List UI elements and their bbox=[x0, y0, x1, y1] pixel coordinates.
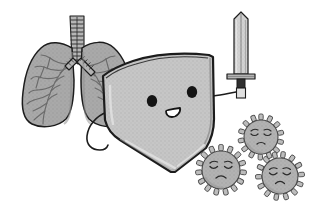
right-arm bbox=[213, 92, 236, 96]
scene-svg bbox=[0, 0, 317, 215]
sword-grip bbox=[237, 79, 245, 88]
shield-left-eye bbox=[147, 95, 157, 107]
sword bbox=[227, 12, 255, 98]
virus-top-right bbox=[238, 114, 284, 160]
illustration-canvas: Immune defense cartoon illustration Huma… bbox=[0, 0, 317, 215]
shield-character bbox=[103, 54, 214, 172]
left-lung-lobe bbox=[22, 43, 74, 127]
shield-right-eye bbox=[187, 86, 197, 98]
sword-pommel bbox=[237, 88, 246, 98]
virus-bottom-right bbox=[255, 151, 304, 200]
virus-bottom-left bbox=[195, 145, 246, 196]
